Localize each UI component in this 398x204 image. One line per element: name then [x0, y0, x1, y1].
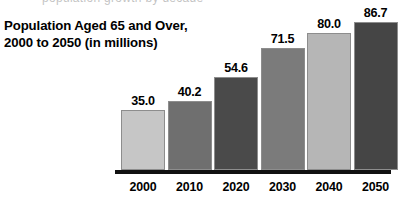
plot-area: 35.0200040.2201054.6202071.5203080.02040… — [0, 0, 398, 204]
bar-value-label: 35.0 — [131, 94, 155, 108]
bar-value-label: 80.0 — [317, 17, 341, 31]
bar[interactable] — [214, 77, 258, 170]
bar[interactable] — [307, 33, 351, 170]
x-axis-tick-label: 2000 — [130, 180, 157, 194]
x-axis-tick-label: 2030 — [269, 180, 296, 194]
bar[interactable] — [121, 110, 165, 170]
bar-value-label: 71.5 — [271, 32, 295, 46]
bar-group: 40.2 — [168, 101, 212, 170]
bar[interactable] — [168, 101, 212, 170]
chart-figure: population growth by decade Population A… — [0, 0, 398, 204]
x-axis-tick-label: 2040 — [316, 180, 343, 194]
x-axis-line — [115, 170, 391, 174]
x-axis-tick-label: 2050 — [362, 180, 389, 194]
bar-group: 86.7 — [354, 22, 398, 170]
bar-value-label: 54.6 — [224, 61, 248, 75]
bar-group: 35.0 — [121, 110, 165, 170]
bar-group: 54.6 — [214, 77, 258, 170]
bar-value-label: 40.2 — [178, 85, 202, 99]
bar[interactable] — [261, 48, 305, 170]
bar-value-label: 86.7 — [364, 6, 388, 20]
x-axis-tick-label: 2010 — [176, 180, 203, 194]
bar-group: 80.0 — [307, 33, 351, 170]
bar[interactable] — [354, 22, 398, 170]
bar-group: 71.5 — [261, 48, 305, 170]
x-axis-tick-label: 2020 — [223, 180, 250, 194]
